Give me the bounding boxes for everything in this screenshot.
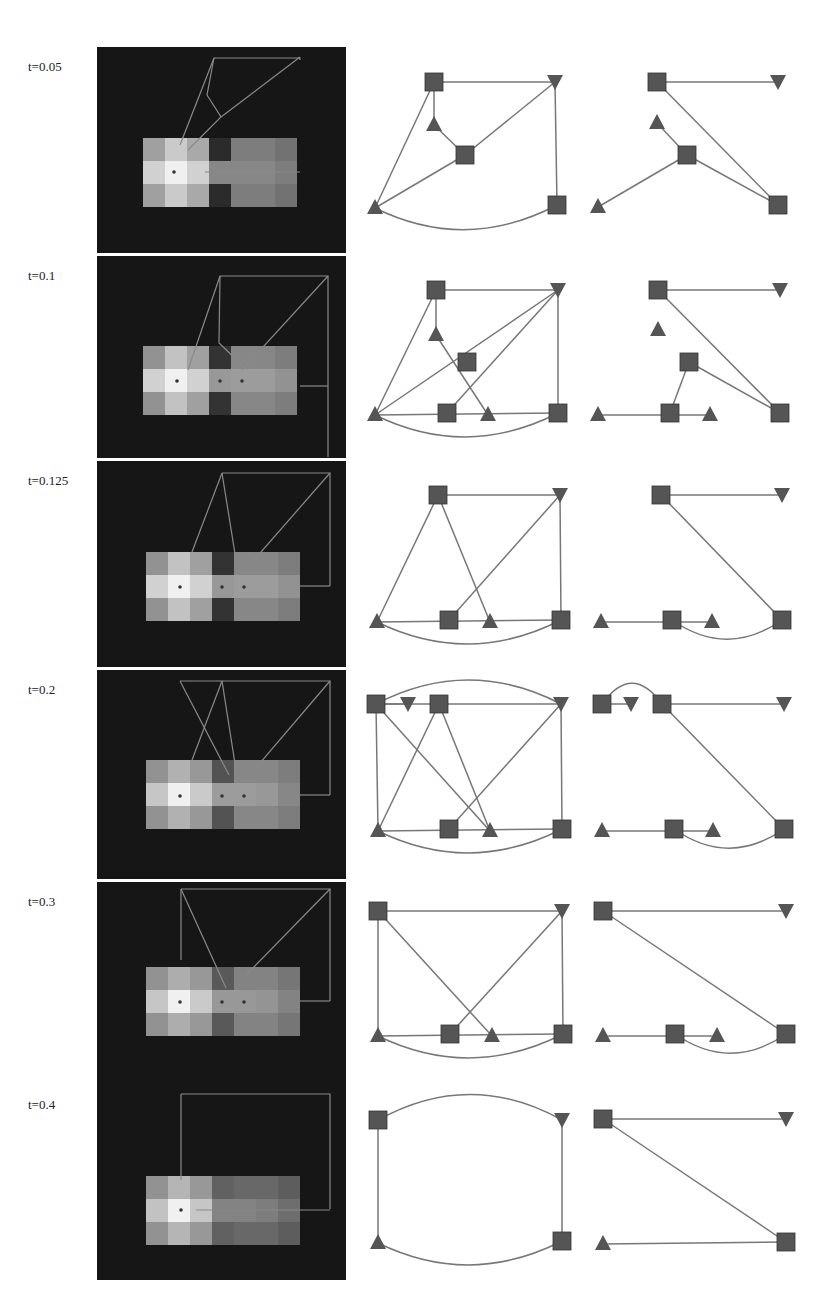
square-node-icon	[773, 611, 791, 629]
triangle-up-node-icon	[593, 613, 609, 628]
figure-row	[97, 670, 793, 879]
square-node-icon	[594, 902, 612, 920]
graph-edge	[561, 704, 562, 829]
triangle-up-node-icon	[650, 321, 666, 336]
square-node-icon	[661, 404, 679, 422]
graph-arc	[375, 413, 558, 437]
square-node-icon	[427, 281, 445, 299]
triangle-up-node-icon	[367, 199, 383, 214]
graph-diagram-right	[594, 1110, 795, 1251]
square-node-icon	[769, 196, 787, 214]
graph-edge	[375, 290, 558, 415]
square-node-icon	[458, 353, 476, 371]
graph-diagram-left	[369, 1094, 571, 1265]
graph-edge	[375, 82, 434, 208]
graph-edge	[657, 82, 778, 205]
square-node-icon	[554, 1025, 572, 1043]
center-dot	[242, 1000, 246, 1004]
graph-edge	[662, 704, 784, 829]
graph-arc	[675, 1034, 786, 1053]
graph-arc	[378, 1094, 562, 1120]
figure-row	[97, 47, 787, 253]
graph-arc	[378, 829, 562, 853]
graph-edge	[378, 829, 562, 831]
center-dot	[178, 585, 182, 589]
triangle-up-node-icon	[595, 1027, 611, 1042]
square-node-icon	[680, 353, 698, 371]
graph-edge	[378, 911, 492, 1036]
graph-arc	[674, 829, 784, 848]
graph-edge	[449, 495, 560, 620]
graph-edge	[375, 413, 558, 415]
graph-diagram-left	[367, 281, 567, 437]
triangle-up-node-icon	[367, 406, 383, 421]
square-node-icon	[429, 486, 447, 504]
graph-edge	[687, 155, 778, 205]
triangle-up-node-icon	[370, 1027, 386, 1042]
triangle-up-node-icon	[370, 1234, 386, 1249]
triangle-up-node-icon	[590, 198, 606, 213]
graph-edge	[560, 495, 561, 620]
square-node-icon	[425, 73, 443, 91]
center-dot	[240, 379, 244, 383]
graph-diagram-right	[594, 902, 795, 1053]
square-node-icon	[440, 820, 458, 838]
square-node-icon	[777, 1233, 795, 1251]
graph-edge	[375, 290, 436, 415]
square-node-icon	[441, 1025, 459, 1043]
triangle-up-node-icon	[590, 406, 606, 421]
square-node-icon	[456, 146, 474, 164]
graph-diagram-right	[593, 683, 793, 848]
figure-row	[97, 882, 795, 1088]
center-dot	[175, 379, 179, 383]
triangle-up-node-icon	[594, 822, 610, 837]
center-dot	[178, 1000, 182, 1004]
triangle-up-node-icon	[649, 114, 665, 129]
square-node-icon	[440, 611, 458, 629]
graph-edge	[661, 495, 782, 620]
triangle-up-node-icon	[709, 1027, 725, 1042]
square-node-icon	[777, 1025, 795, 1043]
graph-edge	[377, 620, 561, 622]
graph-arc	[378, 1241, 562, 1265]
triangle-up-node-icon	[705, 822, 721, 837]
graph-edge	[689, 362, 780, 413]
square-node-icon	[678, 146, 696, 164]
graph-diagram-left	[367, 680, 571, 853]
graph-edge	[376, 704, 490, 831]
figure	[0, 0, 833, 1312]
graph-edge	[449, 704, 561, 829]
square-node-icon	[594, 1110, 612, 1128]
figure-row	[97, 256, 789, 458]
square-node-icon	[549, 404, 567, 422]
square-node-icon	[663, 611, 681, 629]
graph-diagram-right	[590, 73, 787, 214]
triangle-down-node-icon	[554, 1113, 570, 1128]
graph-edge	[598, 155, 687, 207]
graph-edge	[436, 335, 488, 415]
square-node-icon	[665, 820, 683, 838]
triangle-up-node-icon	[595, 1235, 611, 1250]
figure-row	[97, 1085, 795, 1280]
graph-diagram-right	[590, 281, 789, 422]
graph-edge	[375, 155, 465, 208]
graph-diagram-left	[367, 73, 566, 230]
center-dot	[172, 170, 176, 174]
square-node-icon	[430, 695, 448, 713]
graph-arc	[375, 205, 557, 230]
heatmap	[146, 760, 300, 829]
square-node-icon	[553, 820, 571, 838]
graph-edge	[450, 911, 562, 1034]
square-node-icon	[367, 695, 385, 713]
graph-edge	[562, 911, 563, 1034]
graph-edge	[465, 82, 555, 155]
graph-edge	[378, 704, 439, 831]
triangle-up-node-icon	[704, 613, 720, 628]
square-node-icon	[369, 902, 387, 920]
triangle-up-node-icon	[702, 406, 718, 421]
square-node-icon	[653, 695, 671, 713]
square-node-icon	[775, 820, 793, 838]
graph-edge	[376, 704, 378, 831]
square-node-icon	[771, 404, 789, 422]
center-dot	[220, 585, 224, 589]
